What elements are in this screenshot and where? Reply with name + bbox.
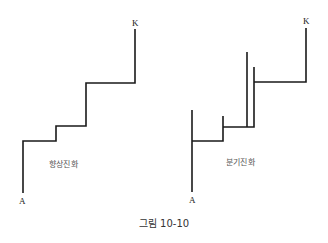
left-end-label: K	[132, 19, 139, 28]
branch-3	[254, 28, 306, 82]
right-start-label: A	[189, 196, 196, 205]
right-title: 분기진화	[226, 159, 255, 167]
left-start-label: A	[19, 197, 26, 206]
left-title: 향상진화	[49, 161, 78, 169]
cladogenesis-path	[192, 28, 306, 192]
right-end-label: K	[303, 17, 310, 26]
branch-1	[192, 116, 223, 141]
diagram-lines	[0, 0, 328, 243]
branch-2	[223, 67, 254, 127]
figure-caption: 그림 10-10	[0, 215, 328, 230]
anagenesis-path	[23, 29, 135, 193]
